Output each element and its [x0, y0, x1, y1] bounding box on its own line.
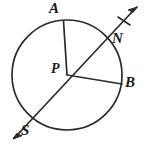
point-label-p-center: P — [51, 61, 60, 76]
geometry-figure: A N B P S — [0, 0, 146, 144]
point-label-a: A — [49, 1, 59, 16]
point-label-s: S — [21, 123, 29, 138]
point-label-b: B — [125, 75, 135, 90]
radius-pb — [67, 75, 122, 84]
point-label-n: N — [112, 31, 123, 46]
radius-pa — [64, 21, 68, 75]
ray-arrowhead-upper — [128, 7, 137, 13]
